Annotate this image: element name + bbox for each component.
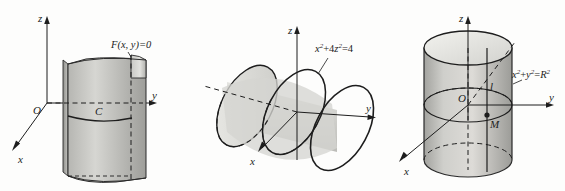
x-axis-line (16, 103, 47, 146)
z-axis-arrow (294, 26, 300, 34)
figure-3-x-axis-label: x (403, 165, 409, 177)
figure-1-y-axis-label: y (151, 89, 157, 101)
figure-1-svg: z y x O C F(x, y)=0 (0, 0, 185, 191)
figure-3-eq-sup3: 2 (547, 68, 551, 76)
figure-2-x-axis-label: x (249, 155, 255, 167)
figure-3-svg: z y x O l M x2+y2=R2 (372, 0, 565, 191)
figure-2-equation-label: x2+4z2=4 (314, 42, 354, 54)
figure-2-equation-leader (318, 58, 328, 74)
figure-1-z-axis-label: z (37, 12, 43, 24)
x-axis-arrow (399, 152, 408, 162)
figure-1-equation-label: F(x, y)=0 (110, 39, 152, 51)
figure-1-left-edge-lip (63, 60, 68, 176)
z-axis-arrow (44, 16, 50, 24)
figure-3-equation-label: x2+y2=R2 (511, 68, 551, 80)
figure-3-equation-leader (513, 80, 522, 84)
figure-1-origin-label: O (33, 104, 41, 116)
figure-3-z-axis-label: z (458, 12, 464, 24)
figure-2-y-axis-label: y (365, 102, 371, 114)
figure-3-point-M (484, 112, 489, 117)
y-axis-arrow (546, 102, 554, 108)
y-axis-arrow (149, 100, 157, 106)
figure-3-panel: z y x O l M x2+y2=R2 (372, 0, 565, 191)
figure-1-x-axis-label: x (17, 153, 23, 165)
figure-3-generator-label: l (490, 80, 493, 92)
figure-2-panel: z y x x2+4z2=4 (182, 0, 377, 191)
figure-3-point-M-label: M (489, 118, 500, 130)
figure-2-svg: z y x x2+4z2=4 (182, 0, 377, 191)
figure-1-panel: z y x O C F(x, y)=0 (0, 0, 185, 191)
figure-2-eq-plus: +4 (323, 43, 335, 54)
figure-3-origin-label: O (458, 92, 466, 104)
figure-2-z-axis-label: z (287, 24, 293, 36)
figure-1-curve-label: C (95, 105, 103, 117)
figure-1-equation-leader (128, 52, 131, 57)
figure-2-eq-rhs: =4 (342, 43, 354, 54)
figure-row: z y x O C F(x, y)=0 (0, 0, 565, 191)
z-axis-arrow (465, 16, 471, 24)
figure-3-y-axis-label: y (548, 91, 554, 103)
